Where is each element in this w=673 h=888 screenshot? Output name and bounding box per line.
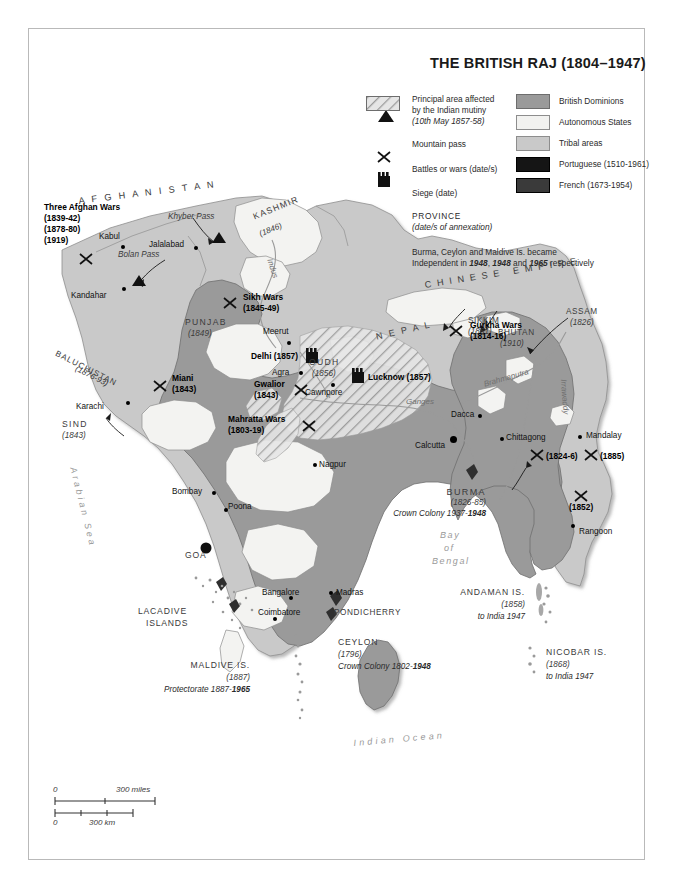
city-dot-madras <box>329 591 333 595</box>
legend-area-label-1: Autonomous States <box>559 118 631 127</box>
island-label-lacadive-2: ISLANDS <box>146 619 188 629</box>
city-dot-kabul <box>121 245 125 249</box>
legend-mutiny-line3: (10th May 1857-58) <box>412 117 484 126</box>
region-oudh-date: (1856) <box>312 369 336 378</box>
map-graphics <box>0 0 673 888</box>
city-label-rangoon: Rangoon <box>579 527 612 536</box>
city-dot-rangoon <box>571 524 575 528</box>
battle-date-1885: (1885) <box>600 452 624 461</box>
legend-area-label-0: British Dominions <box>559 97 624 106</box>
region-sind: SIND <box>62 420 88 430</box>
battle-date-afghan-1: (1878-80) <box>44 225 80 234</box>
battle-date-sikh: (1845-49) <box>243 304 279 313</box>
city-label-meerut: Meerut <box>263 327 288 336</box>
region-assam-date: (1826) <box>570 318 594 327</box>
battle-label-mahratta: Mahratta Wars <box>228 415 285 424</box>
legend-swatch-tribal <box>516 136 550 151</box>
region-assam: ASSAM <box>566 307 598 316</box>
city-dot-coimbatore <box>273 617 277 621</box>
city-dot-mandalay <box>578 435 582 439</box>
region-punjab: PUNJAB <box>185 318 227 328</box>
legend-swatch-portuguese <box>516 157 550 172</box>
city-label-kabul: Kabul <box>99 232 120 241</box>
island-date-maldive: (1887) <box>140 673 250 682</box>
battle-date-afghan-2: (1919) <box>44 236 68 245</box>
battle-date-afghan-0: (1839-42) <box>44 214 80 223</box>
scale-zero-miles: 0 <box>53 786 57 795</box>
legend-mutiny-line1: Principal area affected <box>412 95 494 104</box>
region-burma-note: Crown Colony 1937-1948 <box>375 509 486 518</box>
legend-swatch-mutiny <box>366 96 400 111</box>
city-label-agra: Agra <box>272 368 289 377</box>
battle-label-gwalior: Gwalior <box>254 380 285 389</box>
island-label-ceylon: CEYLON <box>338 638 378 648</box>
legend-province-label: PROVINCE <box>412 212 461 221</box>
region-oudh: OUDH <box>309 358 340 368</box>
city-dot-jalalabad <box>194 246 198 250</box>
battle-label-afghan: Three Afghan Wars <box>44 203 120 212</box>
city-label-nagpur: Nagpur <box>319 460 346 469</box>
island-note-nicobar: to India 1947 <box>546 672 593 681</box>
map-page: THE BRITISH RAJ (1804–1947) Principal ar… <box>0 0 673 888</box>
city-dot-kandahar <box>122 287 126 291</box>
island-label-nicobar: NICOBAR IS. <box>546 648 607 658</box>
city-label-poona: Poona <box>228 502 252 511</box>
region-pondicherry: PONDICHERRY <box>334 608 401 617</box>
region-punjab-date: (1849) <box>188 329 212 338</box>
legend-swatch-british <box>516 94 550 109</box>
city-dot-nagpur <box>313 463 317 467</box>
indep-prefix: Independent in <box>412 258 469 268</box>
battle-label-miani: Miani <box>172 374 193 383</box>
burma-note-prefix: Crown Colony 1937- <box>393 509 468 518</box>
city-label-cawnpore: Cawnpore <box>305 388 342 397</box>
scale-max-km: 300 km <box>89 819 115 828</box>
city-dot-calcutta <box>450 436 457 443</box>
legend-mountain-pass-label: Mountain pass <box>412 140 466 149</box>
island-label-andaman: ANDAMAN IS. <box>420 588 525 598</box>
city-label-coimbatore: Coimbatore <box>258 608 300 617</box>
island-note-andaman: to India 1947 <box>420 612 525 621</box>
burma-note-year: 1948 <box>468 509 486 518</box>
island-date-nicobar: (1868) <box>546 660 570 669</box>
legend-independence-line1: Burma, Ceylon and Maldive Is. became <box>412 248 557 257</box>
andaman-islands <box>536 583 543 616</box>
scale-zero-km: 0 <box>53 819 57 828</box>
island-date-andaman: (1858) <box>420 600 525 609</box>
battle-label-gurkha: Gurkha Wars <box>470 321 522 330</box>
city-label-calcutta: Calcutta <box>415 441 445 450</box>
legend-mountain-icon <box>378 110 394 122</box>
region-burma: BURMA <box>409 487 486 497</box>
city-dot-cawnpore <box>331 383 335 387</box>
island-date-ceylon: (1796) <box>338 650 362 659</box>
city-label-bombay: Bombay <box>172 487 202 496</box>
legend-swatch-autonomous <box>516 115 550 130</box>
indep-year-1: 1948 <box>469 258 487 268</box>
city-dot-meerut <box>287 341 291 345</box>
island-label-maldive: MALDIVE IS. <box>140 661 250 671</box>
battle-date-miani: (1843) <box>172 385 196 394</box>
legend-battles-label: Battles or wars (date/s) <box>412 165 497 174</box>
pass-label-khyber: Khyber Pass <box>168 212 214 221</box>
battle-date-gurkha: (1814-16) <box>470 332 506 341</box>
legend-battle-icon <box>378 152 390 162</box>
city-dot-dacca <box>478 414 482 418</box>
city-label-dacca: Dacca <box>451 410 474 419</box>
city-label-madras: Madras <box>336 588 363 597</box>
pass-label-bolan: Bolan Pass <box>118 250 159 259</box>
sea-label-bay-3: Bengal <box>432 556 470 566</box>
siege-label-delhi: Delhi (1857) <box>251 352 298 361</box>
siege-lucknow <box>352 368 364 383</box>
legend-province-sub: (date/s of annexation) <box>412 223 492 232</box>
region-sind-date: (1843) <box>62 431 86 440</box>
battle-date-gwalior: (1843) <box>254 391 278 400</box>
legend-area-label-4: French (1673-1954) <box>559 181 632 190</box>
island-note-ceylon: Crown Colony 1802-1948 <box>338 662 431 671</box>
siege-label-lucknow: Lucknow (1857) <box>368 373 431 382</box>
city-label-chittagong: Chittagong <box>506 433 546 442</box>
river-label-irrawaddy: Irrawaddy <box>558 379 569 415</box>
legend-mutiny-line2: by the Indian mutiny <box>412 106 486 115</box>
ceylon-note-prefix: Crown Colony 1802- <box>338 662 413 671</box>
battle-date-1824: (1824-6) <box>546 452 578 461</box>
region-goa: GOA <box>185 551 207 561</box>
city-dot-bombay <box>212 491 216 495</box>
